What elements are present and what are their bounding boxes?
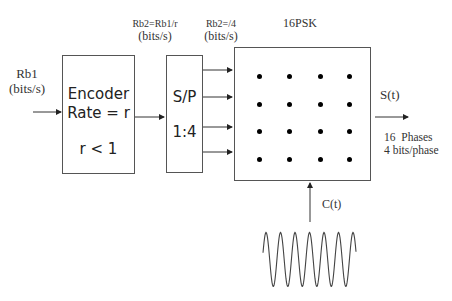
psk-modulator-block — [234, 47, 371, 181]
16psk-block-diagram: Rb1 (bits/s) Encoder Rate = r r < 1 Rb2=… — [0, 0, 452, 301]
carrier-sine-wave — [263, 233, 356, 287]
encoder-output-rate-label: Rb2=Rb1/r (bits/s) — [125, 18, 185, 43]
constellation-point — [347, 129, 352, 134]
constellation-point — [257, 102, 262, 107]
input-unit-text: (bits/s) — [2, 82, 52, 97]
output-phases-label: 16 Phases 4 bits/phase — [384, 131, 439, 157]
encoder-rate: Rate = r — [63, 105, 134, 122]
constellation-point — [257, 129, 262, 134]
constellation-point — [287, 74, 292, 79]
output-signal-label: S(t) — [380, 88, 400, 103]
constellation-point — [287, 102, 292, 107]
encoder-output-unit-text: (bits/s) — [125, 30, 185, 44]
constellation-point — [318, 102, 323, 107]
input-rate-text: Rb1 — [2, 67, 52, 82]
constellation-point — [287, 157, 292, 162]
constellation-point — [347, 74, 352, 79]
encoder-title: Encoder — [63, 86, 134, 103]
encoder-constraint: r < 1 — [63, 141, 134, 158]
constellation-point — [287, 129, 292, 134]
constellation-point — [318, 74, 323, 79]
sp-ratio: 1:4 — [167, 124, 202, 141]
constellation-point — [257, 157, 262, 162]
modulator-title: 16PSK — [275, 17, 325, 31]
constellation-point — [347, 102, 352, 107]
carrier-label: C(t) — [322, 198, 341, 212]
constellation-point — [318, 129, 323, 134]
encoder-output-rate-text: Rb2=Rb1/r — [125, 18, 185, 30]
sp-title: S/P — [167, 89, 202, 106]
constellation-point — [347, 157, 352, 162]
sp-output-rate-text: Rb2=/4 — [203, 18, 239, 30]
output-phases-text: 16 Phases — [384, 131, 439, 144]
input-rate-label: Rb1 (bits/s) — [2, 67, 52, 97]
sp-output-unit-text: (bits/s) — [203, 30, 239, 44]
constellation-point — [257, 74, 262, 79]
encoder-block: Encoder Rate = r r < 1 — [62, 55, 135, 174]
sp-output-rate-label: Rb2=/4 (bits/s) — [203, 18, 239, 43]
output-bits-text: 4 bits/phase — [384, 144, 439, 157]
constellation-point — [318, 157, 323, 162]
serial-to-parallel-block: S/P 1:4 — [166, 55, 203, 173]
